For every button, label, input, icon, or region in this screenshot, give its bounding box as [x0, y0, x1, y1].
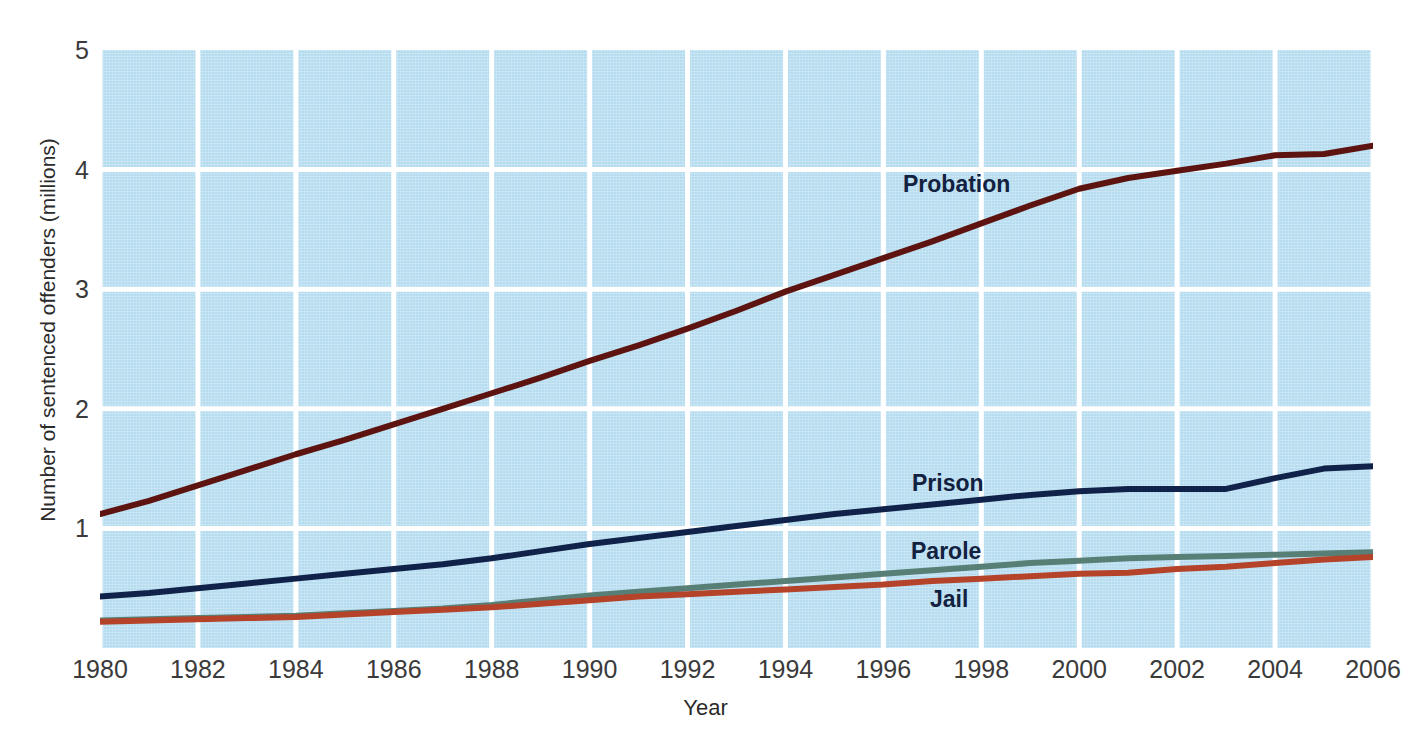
series-label-jail: Jail: [930, 588, 968, 611]
chart-figure: Number of sentenced offenders (millions)…: [0, 0, 1411, 736]
y-tick-label: 1: [49, 516, 89, 541]
x-tick-label: 2006: [1313, 657, 1411, 682]
y-tick-label: 3: [49, 277, 89, 302]
y-tick-label: 2: [49, 396, 89, 421]
plot-area: [100, 50, 1373, 648]
y-tick-label: 4: [49, 157, 89, 182]
series-label-probation: Probation: [903, 173, 1010, 196]
series-line-jail: [100, 557, 1373, 622]
x-axis-title: Year: [0, 695, 1411, 721]
y-tick-label: 5: [49, 38, 89, 63]
series-line-prison: [100, 466, 1373, 596]
series-line-parole: [100, 552, 1373, 620]
series-label-parole: Parole: [911, 540, 981, 563]
plot-lines: [100, 50, 1373, 648]
series-line-probation: [100, 146, 1373, 514]
series-label-prison: Prison: [912, 472, 984, 495]
